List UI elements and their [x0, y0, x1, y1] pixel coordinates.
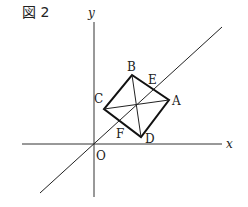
x-axis-label: x: [226, 137, 233, 151]
point-label-c: C: [94, 92, 103, 106]
point-label-b: B: [127, 60, 136, 74]
line-through-origin: [40, 27, 222, 193]
point-label-f: F: [116, 127, 124, 141]
point-label-a: A: [171, 94, 181, 108]
diagonal-bd: [132, 75, 141, 137]
point-label-e: E: [148, 73, 157, 87]
figure-title: 図 2: [22, 4, 49, 20]
point-label-d: D: [145, 132, 155, 146]
y-axis-label: y: [87, 6, 95, 20]
diagram-canvas: 図 2 y x O B E A C F D: [0, 0, 248, 207]
origin-label: O: [96, 149, 106, 163]
